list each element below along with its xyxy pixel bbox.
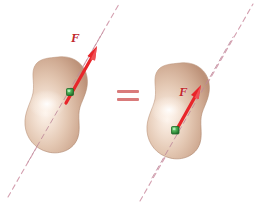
- equals-bar-bottom: [117, 98, 139, 101]
- force-label-right: F: [179, 85, 188, 98]
- equals-bar-top: [117, 90, 139, 93]
- application-point-right: [172, 127, 180, 135]
- equals-sign: [117, 88, 139, 103]
- left-panel: [8, 4, 119, 197]
- physics-figure-transmissibility: F F: [0, 0, 259, 203]
- rigid-body-right: [147, 63, 209, 159]
- rigid-body-left: [25, 57, 87, 153]
- body-highlight-left: [28, 90, 66, 118]
- application-point-left: [67, 89, 74, 96]
- right-panel: [140, 4, 253, 201]
- force-label-left: F: [71, 31, 80, 44]
